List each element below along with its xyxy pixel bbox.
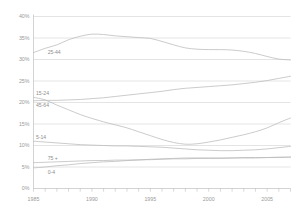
series-label-5-14: 5-14 [36,134,46,140]
x-axis-tick-label: 1995 [144,196,156,202]
series-line-0-4 [34,157,291,168]
series-label-15-24: 15-24 [36,90,49,96]
y-axis-tick-label: 0% [22,185,30,191]
series-label-25-44: 25-44 [48,49,61,55]
y-axis-tick-label: 35% [19,35,30,41]
y-axis-tick-label: 30% [19,56,30,62]
series-label-75: 75 + [48,155,58,161]
line-chart: 0%5%10%15%20%25%30%35%40%198519901995200… [0,0,297,220]
x-axis-tick-label: 1990 [86,196,98,202]
series-line-15-24 [34,97,291,144]
y-axis-tick-label: 10% [19,142,30,148]
chart-canvas: 0%5%10%15%20%25%30%35%40%198519901995200… [0,0,297,220]
y-axis-tick-label: 15% [19,121,30,127]
series-line-5-14 [34,141,291,151]
y-axis-tick-label: 20% [19,99,30,105]
series-line-45-64 [34,76,291,101]
x-axis-tick-label: 1985 [28,196,40,202]
series-label-0-4: 0-4 [48,169,56,175]
series-line-75 [34,157,291,163]
y-axis-tick-label: 5% [22,164,30,170]
y-axis-tick-label: 25% [19,78,30,84]
y-axis-tick-label: 40% [19,13,30,19]
x-axis-tick-label: 2005 [261,196,273,202]
series-label-45-64: 45-64 [36,102,49,108]
x-axis-tick-label: 2000 [203,196,215,202]
